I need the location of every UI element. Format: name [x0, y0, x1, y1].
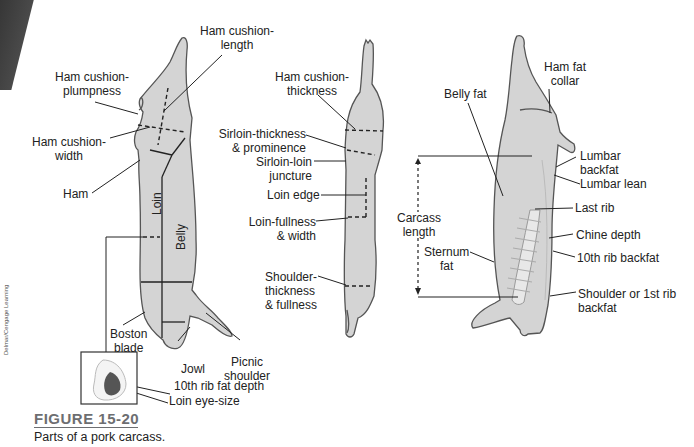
label-lumbar-lean: Lumbar lean	[580, 177, 647, 191]
label-line: Ham cushion-	[275, 70, 349, 84]
label-belly-fat: Belly fat	[444, 87, 487, 101]
pork-carcass-diagram	[0, 0, 694, 447]
label-line: Loin-fullness	[240, 215, 316, 229]
label-ham-cushion-thickness: Ham cushion- thickness	[275, 70, 349, 98]
figure-caption: Parts of a pork carcass.	[34, 430, 165, 444]
label-10th-rib-backfat: 10th rib backfat	[577, 251, 659, 265]
label-line: Picnic	[224, 355, 270, 369]
label-line: backfat	[580, 163, 621, 177]
label-line: length	[397, 225, 441, 239]
label-ham-cushion-length: Ham cushion- length	[200, 24, 274, 52]
label-loin: Loin	[150, 192, 164, 215]
label-line: backfat	[578, 301, 676, 315]
label-ham: Ham	[63, 187, 88, 201]
label-shoulder-thickness: Shoulder- thickness & fullness	[265, 270, 317, 312]
label-line: Sirloin-thickness	[218, 127, 306, 141]
label-line: Ham fat	[544, 60, 586, 74]
image-credit: Delmar/Cengage Learning	[3, 285, 9, 355]
top-view-carcass	[344, 40, 383, 337]
label-line: thickness	[275, 84, 349, 98]
label-shoulder-backfat: Shoulder or 1st rib backfat	[578, 287, 676, 315]
label-jowl: Jowl	[181, 362, 205, 376]
label-line: blade	[110, 341, 147, 355]
label-line: Sirloin-loin	[236, 155, 312, 169]
label-line: Ham cushion-	[200, 24, 274, 38]
label-ham-fat-collar: Ham fat collar	[544, 60, 586, 88]
figure-number: FIGURE 15-20	[34, 410, 139, 427]
label-sirloin-loin-juncture: Sirloin-loin juncture	[236, 155, 312, 183]
label-loin-edge: Loin edge	[267, 188, 320, 202]
label-line: Carcass	[397, 211, 441, 225]
label-lumbar-backfat: Lumbar backfat	[580, 149, 621, 177]
label-line: collar	[544, 74, 586, 88]
label-carcass-length: Carcass length	[397, 211, 441, 239]
label-line: length	[200, 38, 274, 52]
label-line: Lumbar	[580, 149, 621, 163]
label-last-rib: Last rib	[575, 201, 614, 215]
label-belly: Belly	[174, 224, 188, 250]
label-line: & width	[240, 229, 316, 243]
label-line: & prominence	[218, 141, 306, 155]
loin-eye-inset	[81, 352, 137, 404]
label-line: thickness	[265, 284, 317, 298]
label-line: fat	[424, 259, 469, 273]
label-line: width	[32, 149, 106, 163]
label-line: Shoulder or 1st rib	[578, 287, 676, 301]
label-ham-cushion-plumpness: Ham cushion- plumpness	[55, 70, 129, 98]
label-10th-rib-fat-depth: 10th rib fat depth	[174, 379, 264, 393]
label-line: Boston	[110, 327, 147, 341]
label-line: Sternum	[424, 245, 469, 259]
label-line: Shoulder-	[265, 270, 317, 284]
label-boston-blade: Boston blade	[110, 327, 147, 355]
label-sternum-fat: Sternum fat	[424, 245, 469, 273]
label-sirloin-thickness: Sirloin-thickness & prominence	[218, 127, 306, 155]
label-line: plumpness	[55, 84, 129, 98]
label-line: Ham cushion-	[32, 135, 106, 149]
label-loin-fullness: Loin-fullness & width	[240, 215, 316, 243]
figure-rule	[34, 427, 138, 428]
label-line: Ham cushion-	[55, 70, 129, 84]
label-line: & fullness	[265, 298, 317, 312]
label-loin-eye-size: Loin eye-size	[169, 394, 240, 408]
label-chine-depth: Chine depth	[576, 228, 641, 242]
label-ham-cushion-width: Ham cushion- width	[32, 135, 106, 163]
label-line: juncture	[236, 169, 312, 183]
